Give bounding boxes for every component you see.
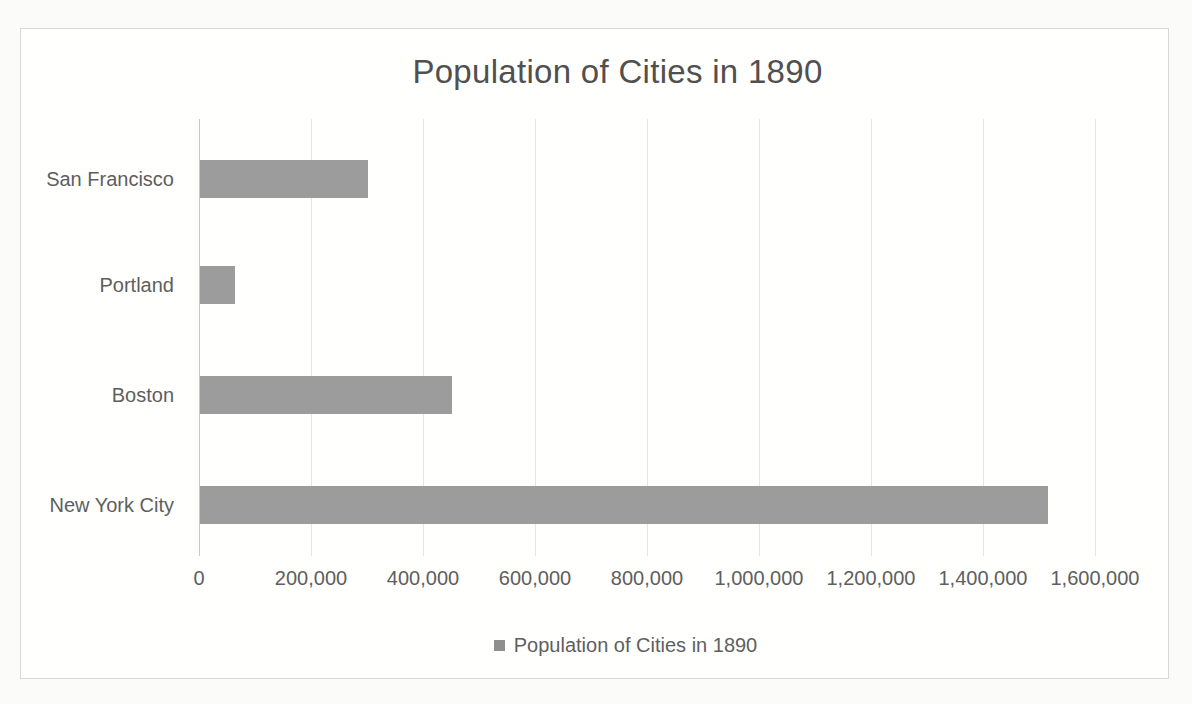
legend-marker-swatch [494, 640, 505, 651]
bar-portland [200, 266, 235, 304]
gridline [1095, 119, 1096, 556]
category-label-new-york-city: New York City [21, 486, 174, 524]
legend-label: Population of Cities in 1890 [514, 634, 758, 657]
bar-san-francisco [200, 160, 368, 198]
bar-new-york-city [200, 486, 1048, 524]
category-label-boston: Boston [21, 376, 174, 414]
category-label-san-francisco: San Francisco [21, 160, 174, 198]
scanned-page: Population of Cities in 1890 0200,000400… [0, 0, 1192, 704]
x-axis-tick-label: 1,600,000 [1025, 567, 1165, 590]
category-label-portland: Portland [21, 266, 174, 304]
bar-boston [200, 376, 452, 414]
plot-area: 0200,000400,000600,000800,0001,000,0001,… [21, 29, 1168, 678]
legend: Population of Cities in 1890 [21, 633, 1168, 657]
chart-frame: Population of Cities in 1890 0200,000400… [20, 28, 1169, 679]
